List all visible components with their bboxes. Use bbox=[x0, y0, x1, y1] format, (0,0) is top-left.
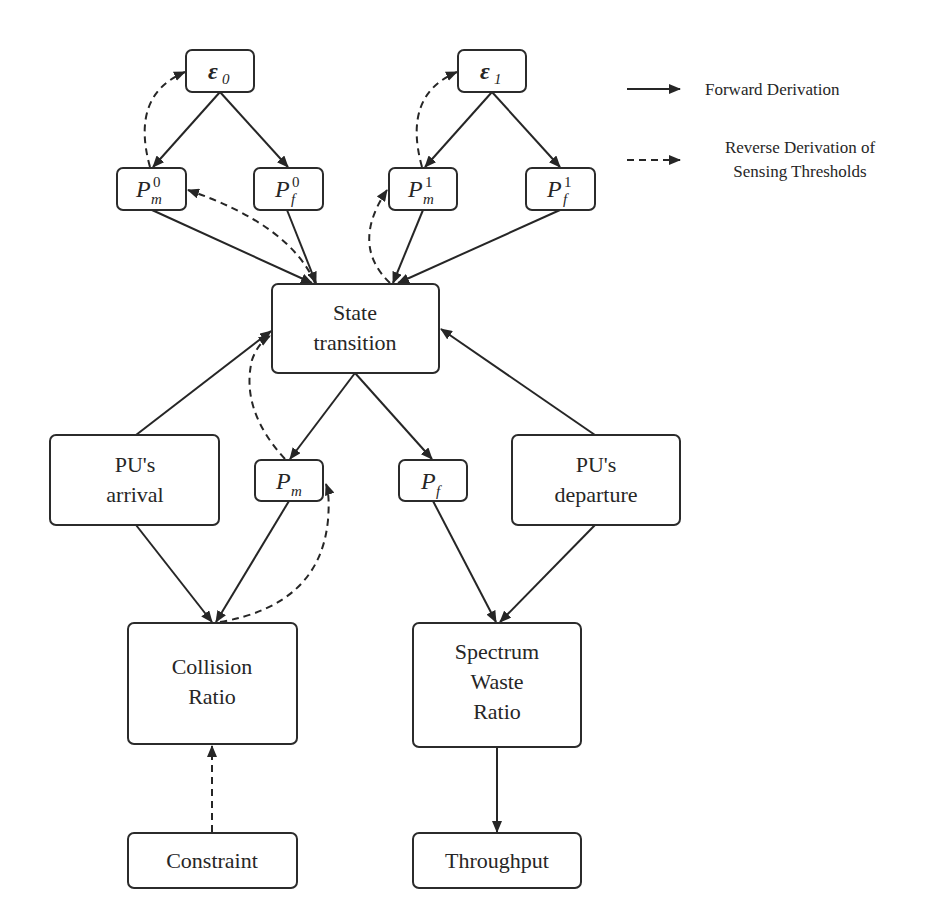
p-symbol: P bbox=[546, 176, 562, 202]
superscript: 0 bbox=[292, 174, 300, 190]
edge-state-pm bbox=[290, 373, 355, 459]
collision-label-line1: Collision bbox=[172, 654, 253, 679]
superscript: 0 bbox=[153, 174, 161, 190]
subscript: m bbox=[151, 191, 162, 207]
legend-forward-label: Forward Derivation bbox=[705, 80, 840, 99]
superscript: 1 bbox=[564, 174, 572, 190]
legend-reverse-label-line2: Sensing Thresholds bbox=[733, 162, 866, 181]
p-symbol: P bbox=[407, 176, 423, 202]
p-symbol: P bbox=[274, 176, 290, 202]
p-symbol: P bbox=[420, 468, 436, 494]
edge-eps1-pf1 bbox=[492, 92, 560, 167]
waste-label-line2: Waste bbox=[470, 669, 523, 694]
node-pf0: P 0 f bbox=[254, 168, 323, 210]
edge-eps0-pf0 bbox=[220, 92, 288, 167]
state-label-line2: transition bbox=[313, 330, 396, 355]
node-epsilon-0: ε 0 bbox=[186, 50, 254, 92]
arrival-label-line2: arrival bbox=[106, 482, 163, 507]
collision-label-line2: Ratio bbox=[188, 684, 236, 709]
p-symbol: P bbox=[275, 468, 291, 494]
epsilon-symbol: ε bbox=[480, 58, 490, 84]
edge-pf0-state bbox=[287, 210, 316, 283]
edge-collision-pm bbox=[220, 484, 329, 622]
node-constraint: Constraint bbox=[128, 833, 297, 888]
departure-label-line1: PU's bbox=[576, 452, 617, 477]
node-throughput: Throughput bbox=[413, 833, 581, 888]
edge-eps1-pm1 bbox=[425, 92, 492, 167]
legend-reverse-label-line1: Reverse Derivation of bbox=[725, 138, 875, 157]
edge-eps0-pm0 bbox=[153, 92, 220, 167]
edge-pf-waste bbox=[433, 501, 496, 622]
node-epsilon-1: ε 1 bbox=[458, 50, 526, 92]
epsilon-subscript: 0 bbox=[222, 71, 230, 87]
epsilon-symbol: ε bbox=[208, 58, 218, 84]
node-pm1: P 1 m bbox=[389, 168, 457, 210]
subscript: m bbox=[423, 191, 434, 207]
node-pm: P m bbox=[255, 460, 323, 501]
node-pf1: P 1 f bbox=[526, 168, 595, 210]
edge-pf1-state bbox=[398, 210, 560, 283]
subscript: m bbox=[291, 483, 302, 499]
edge-pm1-state bbox=[393, 210, 423, 283]
node-pu-arrival: PU's arrival bbox=[50, 435, 219, 525]
node-pf: P f bbox=[399, 460, 467, 501]
state-label-line1: State bbox=[333, 300, 377, 325]
departure-label-line2: departure bbox=[554, 482, 637, 507]
legend: Forward Derivation Reverse Derivation of… bbox=[627, 80, 875, 181]
p-symbol: P bbox=[135, 176, 151, 202]
node-collision-ratio: Collision Ratio bbox=[128, 623, 297, 744]
superscript: 1 bbox=[425, 174, 433, 190]
edge-state-pf bbox=[355, 373, 432, 459]
edge-pm0-state bbox=[152, 210, 312, 283]
edge-state-pm1 bbox=[369, 190, 390, 283]
node-pu-departure: PU's departure bbox=[512, 435, 680, 525]
edge-arrival-state bbox=[136, 331, 271, 435]
edge-departure-waste bbox=[500, 525, 595, 622]
constraint-label: Constraint bbox=[166, 848, 258, 873]
node-state-transition: State transition bbox=[272, 284, 439, 373]
waste-label-line3: Ratio bbox=[473, 699, 521, 724]
edge-departure-state bbox=[441, 329, 595, 435]
epsilon-subscript: 1 bbox=[494, 71, 502, 87]
arrival-label-line1: PU's bbox=[115, 452, 156, 477]
edge-arrival-collision bbox=[136, 525, 212, 622]
throughput-label: Throughput bbox=[445, 848, 549, 873]
node-spectrum-waste-ratio: Spectrum Waste Ratio bbox=[413, 623, 581, 747]
sensing-threshold-derivation-diagram: Forward Derivation Reverse Derivation of… bbox=[0, 0, 945, 919]
node-pm0: P 0 m bbox=[117, 168, 186, 210]
waste-label-line1: Spectrum bbox=[455, 639, 539, 664]
edge-pm-collision bbox=[216, 501, 289, 622]
